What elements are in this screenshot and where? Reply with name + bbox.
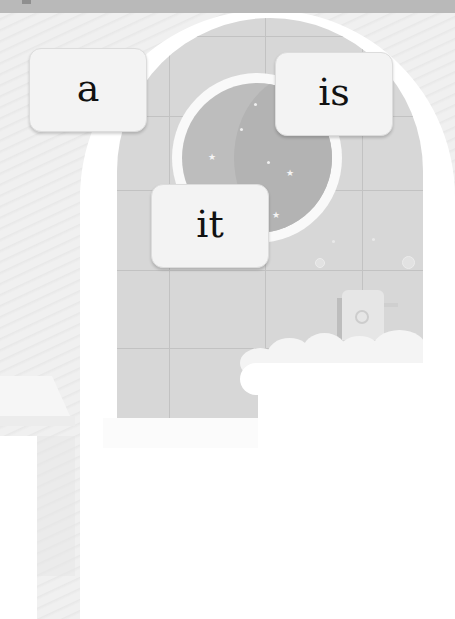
- top-bar-marker: [22, 0, 31, 4]
- bathtub-shadow: [258, 470, 418, 525]
- left-pillar: [80, 190, 103, 619]
- star-icon: ★: [272, 211, 280, 220]
- sparkle-dot: [254, 103, 257, 106]
- left-wall: [0, 436, 37, 619]
- soap-bubble: [315, 258, 325, 268]
- sparkle-dot: [267, 161, 270, 164]
- left-pillar-shadow: [37, 436, 75, 576]
- star-icon: ★: [208, 153, 216, 162]
- word-card-label: a: [77, 69, 100, 111]
- sparkle-dot: [240, 128, 243, 131]
- word-card-label: is: [318, 73, 350, 115]
- star-icon: ★: [286, 169, 294, 178]
- tile-grout: [117, 270, 423, 271]
- sparkle-dot: [372, 238, 375, 241]
- sparkle-dot: [332, 240, 335, 243]
- game-stage: ★ ★ ★ a is: [0, 0, 455, 619]
- right-post: [422, 380, 452, 610]
- tile-grout: [117, 36, 423, 37]
- word-card-a[interactable]: a: [29, 48, 147, 132]
- word-card-label: it: [196, 205, 223, 247]
- floor-line: [100, 530, 430, 537]
- top-bar: [0, 0, 455, 13]
- left-cabinet-lip: [0, 416, 75, 426]
- word-card-it[interactable]: it: [151, 184, 269, 268]
- left-cabinet: [0, 376, 70, 416]
- soap-bubble: [402, 256, 415, 269]
- soap-bottle-nozzle: [384, 303, 398, 307]
- soap-bottle-emblem: [355, 310, 369, 324]
- word-card-is[interactable]: is: [275, 52, 393, 136]
